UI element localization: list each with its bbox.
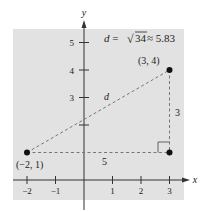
y-axis-arrow-icon <box>82 20 87 28</box>
x-tick-label: −2 <box>22 186 32 196</box>
point-label-3-4: (3, 4) <box>138 55 160 67</box>
svg-text:d =: d = <box>104 32 118 44</box>
x-axis-arrow-icon <box>182 178 190 183</box>
y-tick-label: 3 <box>70 93 75 103</box>
x-axis-label: x <box>192 174 198 185</box>
x-tick-label: 1 <box>110 186 115 196</box>
y-tick-label: 4 <box>70 66 75 76</box>
point-neg2-1 <box>24 150 30 156</box>
formula-radicand: 34 <box>135 32 147 44</box>
distance-diagram: −2 −1 1 2 3 x 3 4 5 y (−2, 1) (3, 4) d 5… <box>0 0 204 212</box>
distance-formula: d = √ 34 ≈ 5.83 <box>104 32 176 46</box>
y-axis-label: y <box>81 7 87 18</box>
point-3-4 <box>167 67 173 73</box>
y-tick-label: 5 <box>70 38 75 48</box>
horizontal-leg-label: 5 <box>102 156 107 167</box>
point-3-1 <box>167 150 173 156</box>
point-label-neg2-1: (−2, 1) <box>16 159 43 171</box>
formula-equals: = <box>110 32 119 44</box>
formula-approx: ≈ 5.83 <box>147 32 176 44</box>
x-tick-label: 3 <box>167 186 172 196</box>
x-tick-label: 2 <box>139 186 144 196</box>
sqrt-icon: √ <box>127 32 134 46</box>
x-tick-label: −1 <box>51 186 61 196</box>
vertical-leg-label: 3 <box>175 107 180 118</box>
